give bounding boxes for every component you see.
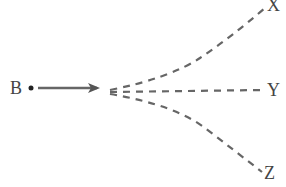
diagram-canvas	[0, 0, 286, 187]
path-to-z	[110, 94, 262, 172]
source-dot	[29, 86, 34, 91]
dashed-paths	[110, 8, 265, 172]
path-to-y	[110, 90, 263, 92]
label-z: Z	[264, 164, 275, 182]
path-to-x	[110, 8, 265, 90]
label-x: X	[267, 0, 280, 14]
label-b: B	[10, 79, 22, 97]
label-y: Y	[267, 81, 280, 99]
